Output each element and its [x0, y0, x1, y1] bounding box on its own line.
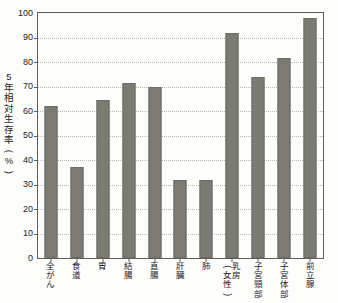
- x-axis-label-char: 腸: [116, 271, 142, 280]
- x-axis-label-prostate: 前立腺: [297, 262, 323, 290]
- bar[interactable]: [44, 106, 57, 258]
- y-axis-tick-label: 90: [9, 33, 33, 42]
- bar[interactable]: [252, 77, 265, 258]
- x-axis-label-char: 腸: [142, 271, 168, 280]
- x-axis-label-char: 性: [223, 280, 232, 289]
- y-axis-tick-label: 40: [9, 156, 33, 165]
- bar-slot: [297, 13, 323, 258]
- bars-group: [38, 13, 323, 258]
- x-axis-label-breast-female: (女性)乳房: [217, 262, 247, 299]
- x-axis-label-column: 乳房: [232, 262, 241, 299]
- bar[interactable]: [278, 58, 291, 258]
- y-axis-tick-label: 30: [9, 180, 33, 189]
- x-axis-labels: 全がん食道胃結腸直腸肝臓肺(女性)乳房子宮頸部子宮体部前立腺: [38, 262, 323, 303]
- y-axis-tick-label: 0: [9, 254, 33, 263]
- y-axis-tick-label: 60: [9, 107, 33, 116]
- x-axis-label-liver: 肝臓: [168, 262, 194, 280]
- x-axis-label-char: 部: [271, 290, 297, 299]
- x-axis-label-lung: 肺: [193, 262, 219, 271]
- x-axis-label-stomach: 胃: [90, 262, 116, 271]
- x-axis-label-char: 肺: [193, 262, 219, 271]
- bar-slot: [271, 13, 297, 258]
- bar-slot: [90, 13, 116, 258]
- bar-slot: [245, 13, 271, 258]
- x-axis-label-rectum: 直腸: [142, 262, 168, 280]
- bar-slot: [219, 13, 245, 258]
- bar[interactable]: [70, 167, 83, 258]
- x-axis-label-char: 道: [64, 271, 90, 280]
- x-axis-label-char: 臓: [168, 271, 194, 280]
- x-axis-label-char: 房: [232, 271, 241, 280]
- x-axis-label-colon: 結腸: [116, 262, 142, 280]
- bar[interactable]: [122, 83, 135, 258]
- x-axis-label-char: ん: [38, 280, 64, 289]
- bar[interactable]: [148, 87, 161, 259]
- bar[interactable]: [304, 18, 317, 258]
- chart-container: 5年相対生存率(%) 1009080706050403020100 全がん食道胃…: [0, 0, 338, 303]
- x-axis-label-char: 胃: [90, 262, 116, 271]
- bar-slot: [142, 13, 168, 258]
- x-axis-label-column: (女性): [223, 262, 232, 299]
- y-axis-tick-label: 80: [9, 58, 33, 67]
- x-axis-label-char: (: [223, 262, 232, 271]
- bar-slot: [64, 13, 90, 258]
- x-axis-label-corpus-uteri: 子宮体部: [271, 262, 297, 299]
- bar[interactable]: [174, 180, 187, 258]
- bar-slot: [38, 13, 64, 258]
- bar[interactable]: [96, 100, 109, 258]
- y-axis-tick-label: 100: [9, 9, 33, 18]
- bar[interactable]: [200, 180, 213, 258]
- bar-slot: [116, 13, 142, 258]
- x-axis-label-char: 腺: [297, 280, 323, 289]
- bar[interactable]: [226, 33, 239, 258]
- x-axis-label-char: ): [223, 290, 232, 299]
- y-axis-tick-label: 70: [9, 82, 33, 91]
- x-axis-label-esophagus: 食道: [64, 262, 90, 280]
- y-axis-tick-label: 10: [9, 229, 33, 238]
- x-axis-label-cervix-uteri: 子宮頸部: [245, 262, 271, 299]
- y-axis-tick-label: 20: [9, 205, 33, 214]
- bar-slot: [168, 13, 194, 258]
- y-axis-tick-label: 50: [9, 131, 33, 140]
- x-axis-label-all-cancers: 全がん: [38, 262, 64, 290]
- x-axis-label-char: 部: [245, 290, 271, 299]
- bar-slot: [193, 13, 219, 258]
